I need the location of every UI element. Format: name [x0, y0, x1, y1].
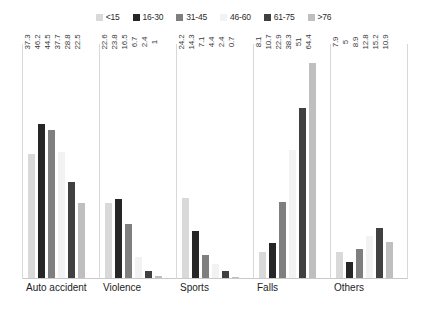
bar-value-label: 37.7: [54, 35, 62, 50]
bar[interactable]: [346, 262, 353, 279]
legend-label: 31-45: [186, 13, 207, 22]
bar[interactable]: [202, 255, 209, 279]
bar-slot: 24.2: [182, 44, 189, 279]
group-divider: [330, 44, 331, 279]
bar[interactable]: [212, 264, 219, 279]
group-divider: [99, 44, 100, 279]
bar-slot: 2.4: [222, 44, 229, 279]
bar-slot: 22.5: [78, 44, 85, 279]
bar[interactable]: [356, 249, 363, 279]
grouped-bar-chart: <1516-3031-4546-6061-75>76 37.346.244.53…: [0, 0, 427, 319]
bar[interactable]: [289, 150, 296, 279]
bar[interactable]: [269, 243, 276, 279]
bar-slot: 10.7: [269, 44, 276, 279]
legend-swatch-61-75: [264, 14, 271, 21]
bar-value-label: 10.9: [382, 35, 390, 50]
bar[interactable]: [125, 224, 132, 279]
bar-slot: 8.9: [356, 44, 363, 279]
bar[interactable]: [135, 257, 142, 279]
bar-slot: 37.3: [28, 44, 35, 279]
bar-slot: 46.2: [38, 44, 45, 279]
bar-slot: 51: [299, 44, 306, 279]
bar-group-falls: 8.110.722.938.35164.4: [253, 44, 330, 279]
legend-swatch-gt76: [308, 14, 315, 21]
bar-slot: 2.4: [145, 44, 152, 279]
legend-label: >76: [318, 13, 332, 22]
legend-item--76[interactable]: >76: [308, 13, 332, 22]
bar[interactable]: [366, 236, 373, 279]
bar-slot: 7.1: [202, 44, 209, 279]
legend-swatch-46-60: [220, 14, 227, 21]
bar-group-auto-accident: 37.346.244.537.728.822.5: [22, 44, 99, 279]
bar-value-label: 6.7: [131, 37, 139, 48]
bar-slot: 8.1: [259, 44, 266, 279]
legend-label: <15: [106, 13, 120, 22]
bar-value-label: 2.4: [141, 37, 149, 48]
bar-value-label: 46.2: [34, 35, 42, 50]
bar-groups: 37.346.244.537.728.822.522.623.816.56.72…: [22, 44, 407, 279]
legend-item--15[interactable]: <15: [96, 13, 120, 22]
bar[interactable]: [78, 203, 85, 279]
bar-value-label: 7.1: [198, 37, 206, 48]
bar-value-label: 22.9: [275, 35, 283, 50]
group-divider: [176, 44, 177, 279]
bar-value-label: 37.3: [24, 35, 32, 50]
bar[interactable]: [28, 154, 35, 279]
bar-value-label: 4.4: [208, 37, 216, 48]
bar-group-sports: 24.214.37.14.42.40.7: [176, 44, 253, 279]
bar-slot: 64.4: [309, 44, 316, 279]
legend-swatch-16-30: [133, 14, 140, 21]
bar[interactable]: [48, 130, 55, 279]
x-tick-label: Sports: [176, 283, 253, 303]
bar[interactable]: [58, 152, 65, 279]
bar-slot: 10.9: [386, 44, 393, 279]
bar-slot: 28.8: [68, 44, 75, 279]
legend-item-31-45[interactable]: 31-45: [176, 13, 207, 22]
bar-slot: 15.2: [376, 44, 383, 279]
bar-slot: 37.7: [58, 44, 65, 279]
bar-group-violence: 22.623.816.56.72.41: [99, 44, 176, 279]
bar[interactable]: [386, 242, 393, 279]
x-tick-label: Others: [330, 283, 407, 303]
bar[interactable]: [376, 228, 383, 279]
bar-value-label: 8.1: [255, 37, 263, 48]
bar[interactable]: [279, 202, 286, 279]
bar-value-label: 23.8: [111, 35, 119, 50]
bar[interactable]: [38, 124, 45, 279]
bar-slot: 12.8: [366, 44, 373, 279]
group-divider: [253, 44, 254, 279]
bar[interactable]: [309, 63, 316, 279]
bar-slot: 23.8: [115, 44, 122, 279]
x-tick-label: Falls: [253, 283, 330, 303]
bar-slot: 4.4: [212, 44, 219, 279]
bar[interactable]: [115, 199, 122, 279]
bar-value-label: 24.2: [178, 35, 186, 50]
bar-slot: 6.7: [135, 44, 142, 279]
bar-slot: 5: [346, 44, 353, 279]
bar-value-label: 15.2: [372, 35, 380, 50]
bar[interactable]: [182, 198, 189, 279]
bar-slot: 22.6: [105, 44, 112, 279]
bar-value-label: 2.4: [218, 37, 226, 48]
bar-value-label: 44.5: [44, 35, 52, 50]
x-tick-label: Auto accident: [22, 283, 99, 303]
bar[interactable]: [68, 182, 75, 279]
legend-item-61-75[interactable]: 61-75: [264, 13, 295, 22]
legend-item-46-60[interactable]: 46-60: [220, 13, 251, 22]
bar[interactable]: [105, 203, 112, 279]
legend-item-16-30[interactable]: 16-30: [133, 13, 164, 22]
x-axis-baseline: [22, 278, 407, 279]
bar[interactable]: [259, 252, 266, 279]
bar-value-label: 1: [151, 40, 159, 44]
bar-value-label: 22.5: [74, 35, 82, 50]
group-divider: [22, 44, 23, 279]
bar[interactable]: [192, 231, 199, 279]
bar-value-label: 22.6: [101, 35, 109, 50]
bar[interactable]: [299, 108, 306, 279]
bar-slot: 1: [155, 44, 162, 279]
chart-legend: <1516-3031-4546-6061-75>76: [0, 13, 427, 22]
bar-value-label: 14.3: [188, 35, 196, 50]
bar-value-label: 28.8: [64, 35, 72, 50]
bar-value-label: 10.7: [265, 35, 273, 50]
bar[interactable]: [336, 252, 343, 279]
